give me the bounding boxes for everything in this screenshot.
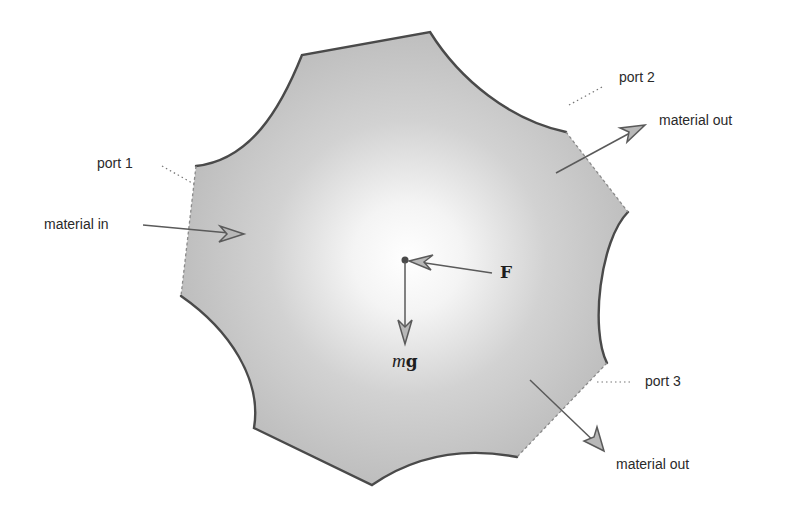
force-mg-mass-symbol: m — [392, 350, 406, 371]
port-3-label: port 3 — [645, 373, 681, 389]
force-mg-gravity-symbol: g — [406, 351, 418, 371]
control-volume-diagram — [0, 0, 792, 505]
port-1-label: port 1 — [97, 155, 133, 171]
material-out-2-arrowhead — [620, 125, 645, 142]
port-2-label: port 2 — [619, 69, 655, 85]
material-out-3-label: material out — [616, 456, 689, 472]
force-F-symbol: F — [500, 262, 512, 282]
force-mg-label: mg — [392, 350, 418, 372]
material-out-2-label: material out — [659, 112, 732, 128]
material-out-3-arrowhead — [584, 427, 604, 451]
port-1-leader — [162, 166, 194, 184]
force-F-label: F — [500, 262, 512, 282]
port-2-leader — [569, 86, 604, 105]
material-in-label: material in — [44, 216, 109, 232]
